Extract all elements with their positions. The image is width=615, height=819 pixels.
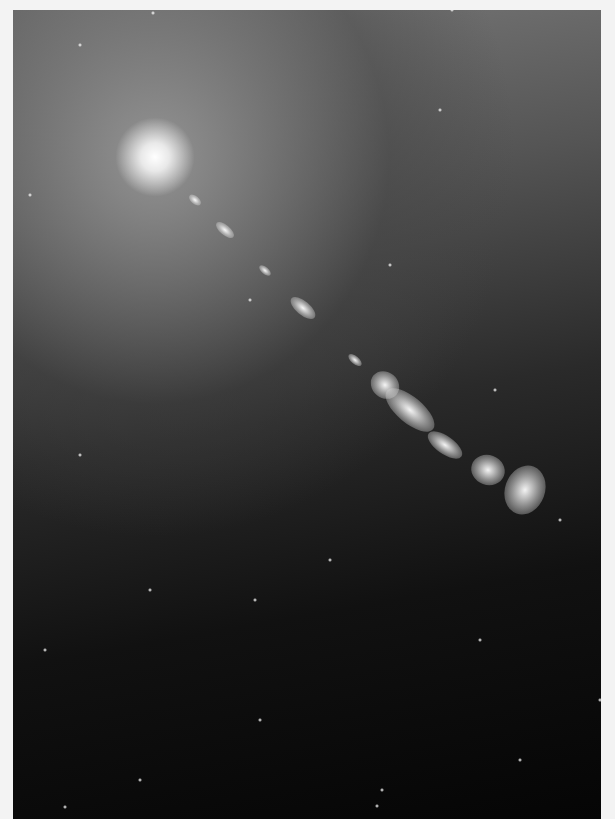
jet-knot — [257, 263, 272, 277]
star — [43, 648, 47, 652]
star — [375, 804, 379, 808]
jet-knot — [467, 450, 509, 490]
star — [148, 588, 152, 592]
star — [388, 263, 392, 267]
star — [478, 638, 482, 642]
star — [63, 805, 67, 809]
star — [28, 193, 32, 197]
jet-knot — [213, 219, 236, 241]
star — [138, 778, 142, 782]
star — [248, 298, 252, 302]
star — [438, 108, 442, 112]
star — [253, 598, 257, 602]
star — [493, 388, 497, 392]
star — [380, 788, 384, 792]
star — [558, 518, 562, 522]
galaxy-photo — [13, 10, 601, 819]
star — [450, 10, 454, 12]
star — [78, 453, 82, 457]
star — [598, 698, 601, 702]
star — [78, 43, 82, 47]
galaxy-core — [115, 117, 195, 197]
star — [151, 11, 155, 15]
star — [258, 718, 262, 722]
jet-knot — [498, 460, 553, 521]
jet-knot — [346, 352, 363, 368]
jet-knot — [287, 293, 319, 323]
star — [328, 558, 332, 562]
star — [518, 758, 522, 762]
jet-knot — [187, 192, 203, 207]
jet-knot — [423, 426, 466, 464]
